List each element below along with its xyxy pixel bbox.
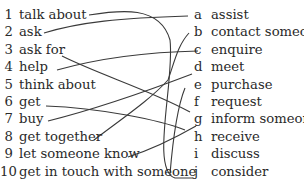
right-item: bcontact someone	[194, 23, 304, 40]
item-text: purchase	[211, 77, 273, 92]
match-line-10-j	[170, 88, 185, 174]
item-text: enquire	[211, 42, 263, 57]
right-item: aassist	[194, 6, 249, 23]
item-text: receive	[211, 129, 260, 144]
item-text: contact someone	[211, 24, 304, 39]
item-number: 8	[0, 128, 13, 145]
item-text: get in touch with someone	[19, 164, 196, 179]
right-item: hreceive	[194, 128, 260, 145]
item-text: request	[211, 94, 262, 109]
item-number: 5	[0, 76, 13, 93]
left-item: 10get in touch with someone	[0, 163, 196, 180]
item-letter: f	[194, 93, 204, 110]
left-item: 9let someone know	[0, 145, 140, 162]
item-number: 7	[0, 110, 13, 127]
right-item: frequest	[194, 93, 262, 110]
item-text: ask for	[19, 42, 65, 57]
item-letter: j	[194, 163, 204, 180]
item-text: help	[19, 59, 48, 74]
item-text: consider	[211, 164, 268, 179]
right-item: jconsider	[194, 163, 268, 180]
item-text: buy	[19, 111, 43, 126]
item-text: ask	[19, 24, 42, 39]
item-number: 4	[0, 58, 13, 75]
item-number: 6	[0, 93, 13, 110]
item-text: meet	[211, 59, 244, 74]
item-number: 3	[0, 41, 13, 58]
item-text: inform someone	[211, 111, 304, 126]
match-line-8-b	[94, 33, 189, 140]
left-item: 8get together	[0, 128, 102, 145]
right-item: cenquire	[194, 41, 263, 58]
item-letter: a	[194, 6, 204, 23]
left-item: 5think about	[0, 76, 96, 93]
right-item: dmeet	[194, 58, 244, 75]
left-item: 7buy	[0, 110, 43, 127]
left-item: 6get	[0, 93, 41, 110]
item-text: get	[19, 94, 41, 109]
right-item: idiscuss	[194, 145, 260, 162]
item-letter: b	[194, 23, 204, 40]
left-item: 1talk about	[0, 6, 87, 23]
item-text: talk about	[19, 7, 87, 22]
item-text: get together	[19, 129, 102, 144]
item-number: 9	[0, 145, 13, 162]
item-number: 10	[0, 163, 13, 180]
item-letter: g	[194, 110, 204, 127]
item-letter: d	[194, 58, 204, 75]
left-item: 4help	[0, 58, 48, 75]
item-number: 1	[0, 6, 13, 23]
item-text: assist	[211, 7, 249, 22]
left-item: 3ask for	[0, 41, 65, 58]
item-letter: e	[194, 76, 204, 93]
item-number: 2	[0, 23, 13, 40]
left-item: 2ask	[0, 23, 42, 40]
item-letter: c	[194, 41, 204, 58]
item-text: let someone know	[19, 146, 140, 161]
item-text: think about	[19, 77, 96, 92]
right-item: epurchase	[194, 76, 273, 93]
item-text: discuss	[211, 146, 260, 161]
item-letter: h	[194, 128, 204, 145]
item-letter: i	[194, 145, 204, 162]
right-item: ginform someone	[194, 110, 304, 127]
